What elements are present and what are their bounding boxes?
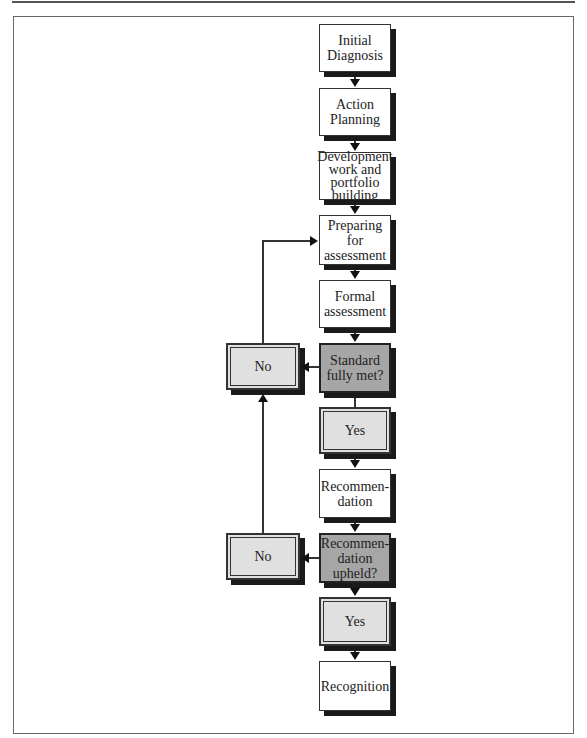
connector-line	[309, 366, 319, 368]
node-label: Action Planning	[330, 97, 380, 127]
node-formal-assessment: Formal assessment	[319, 280, 391, 328]
node-label: No	[254, 549, 271, 564]
node-label: Yes	[345, 423, 365, 438]
arrow-down-icon	[350, 334, 360, 342]
arrow-down-icon	[350, 143, 360, 151]
arrow-right-icon	[310, 236, 318, 246]
node-label: Development work and portfolio building	[317, 150, 392, 202]
decision-recommendation-upheld: Recommen- dation upheld?	[319, 533, 391, 583]
arrow-down-icon	[350, 652, 360, 660]
node-label: Initial Diagnosis	[327, 33, 383, 63]
node-label: Recommen- dation upheld?	[321, 536, 389, 581]
arrow-down-icon	[350, 271, 360, 279]
feedback-line	[262, 402, 264, 533]
outcome-yes-2: Yes	[319, 597, 391, 646]
top-rule	[12, 1, 575, 3]
arrow-up-icon	[258, 394, 268, 402]
node-recognition: Recognition	[319, 661, 391, 711]
connector-line	[354, 398, 356, 407]
node-label: Standard fully met?	[326, 353, 383, 383]
node-label: Yes	[345, 614, 365, 629]
arrow-left-icon	[301, 362, 309, 372]
outcome-no-1: No	[226, 343, 300, 390]
node-development-work: Development work and portfolio building	[319, 152, 391, 200]
decision-standard-fully-met: Standard fully met?	[319, 343, 391, 393]
outcome-yes-1: Yes	[319, 407, 391, 454]
arrow-down-icon	[350, 524, 360, 532]
arrow-down-icon	[350, 588, 360, 596]
arrow-down-icon	[350, 460, 360, 468]
feedback-line	[262, 240, 311, 242]
node-preparing-for-assessment: Preparing for assessment	[319, 215, 391, 265]
arrow-down-icon	[350, 79, 360, 87]
node-label: Recommen- dation	[321, 479, 389, 509]
node-initial-diagnosis: Initial Diagnosis	[319, 24, 391, 72]
node-recommendation: Recommen- dation	[319, 469, 391, 518]
feedback-line	[262, 240, 264, 343]
node-label: Recognition	[321, 679, 389, 694]
connector-line	[309, 557, 319, 559]
outcome-no-2: No	[226, 533, 300, 580]
node-label: No	[254, 359, 271, 374]
arrow-left-icon	[301, 553, 309, 563]
node-label: Formal assessment	[324, 289, 386, 319]
arrow-down-icon	[350, 206, 360, 214]
node-action-planning: Action Planning	[319, 88, 391, 136]
node-label: Preparing for assessment	[324, 218, 386, 263]
